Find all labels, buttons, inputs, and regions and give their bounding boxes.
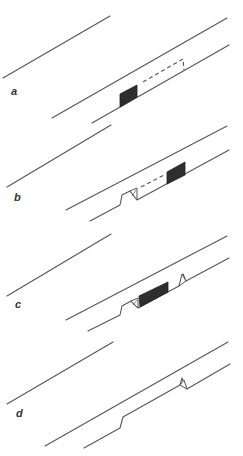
panel-a bbox=[3, 16, 229, 123]
panel-b-dashed-segment bbox=[141, 174, 166, 187]
panel-a-upper-strand bbox=[52, 18, 227, 118]
panel-c-upper-strand bbox=[66, 236, 227, 320]
panel-c-dark-block bbox=[139, 282, 168, 307]
panel-label-a: a bbox=[11, 85, 17, 97]
panel-d-upper-strand bbox=[45, 342, 228, 446]
panel-b-reference-line bbox=[7, 125, 111, 187]
panel-label-d: d bbox=[16, 407, 23, 419]
panel-b bbox=[7, 125, 229, 221]
panel-a-reference-line bbox=[3, 16, 110, 78]
step-diagram bbox=[0, 0, 243, 456]
panel-d-lower-strand bbox=[84, 364, 230, 448]
panel-b-dark-block bbox=[167, 162, 185, 184]
panel-c-reference-line bbox=[7, 234, 111, 296]
panel-b-upper-strand bbox=[66, 126, 227, 210]
panel-c bbox=[7, 234, 229, 331]
panel-d-reference-line bbox=[7, 342, 113, 404]
panel-d bbox=[7, 342, 230, 448]
panel-label-b: b bbox=[14, 191, 21, 203]
panel-c-right-wedge bbox=[179, 274, 186, 286]
panel-label-c: c bbox=[15, 298, 21, 310]
panel-a-dark-block bbox=[120, 85, 137, 107]
